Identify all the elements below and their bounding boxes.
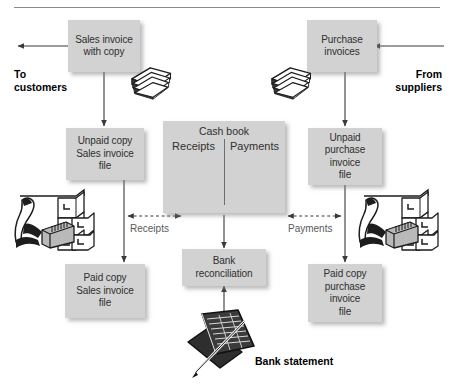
paper-stack-icon (132, 68, 171, 99)
diagram-canvas: Sales invoice with copy Purchase invoice… (0, 0, 450, 387)
bank-statement-ledger-icon (188, 310, 254, 378)
paper-stack-icon (272, 68, 311, 99)
filing-cabinet-clerk-icon (15, 190, 94, 250)
filing-cabinet-clerk-icon (359, 190, 438, 250)
icon-layer (0, 0, 450, 387)
